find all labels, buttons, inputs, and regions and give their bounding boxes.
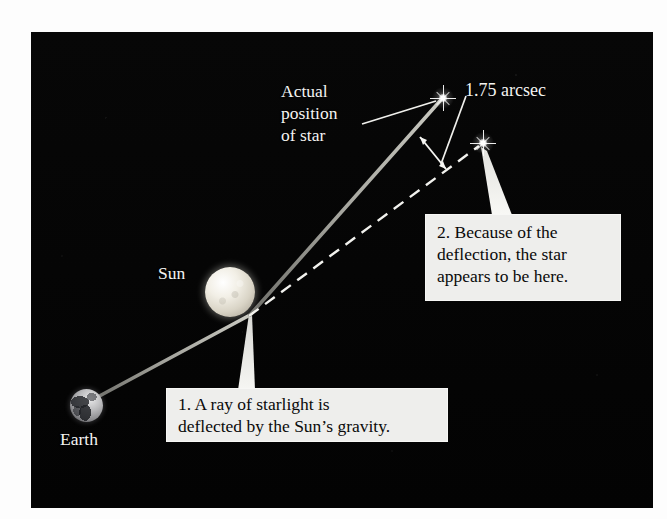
sun-sphere-icon	[205, 267, 255, 317]
star-core	[439, 94, 447, 102]
deflection-angle-label: 1.75 arcsec	[465, 79, 546, 102]
callout-2-text: 2. Because of the deflection, the star a…	[437, 221, 612, 288]
figure-page: Actual position of star 1.75 arcsec Sun …	[0, 0, 667, 519]
callout-2-tail	[481, 147, 512, 215]
light-ray-outgoing	[250, 101, 440, 315]
callout-1-text: 1. A ray of starlight is deflected by th…	[178, 393, 438, 437]
deflection-angle-arrow	[420, 137, 446, 169]
star-core	[479, 139, 487, 147]
callout-box-1: 1. A ray of starlight is deflected by th…	[166, 388, 448, 442]
callout-1-tail	[238, 314, 255, 390]
actual-position-label: Actual position of star	[281, 80, 337, 146]
earth-label: Earth	[60, 428, 98, 450]
earth-globe-icon	[70, 389, 103, 422]
callout-box-2: 2. Because of the deflection, the star a…	[425, 214, 621, 301]
sun-surface-texture	[205, 267, 255, 317]
earth-surface-texture	[70, 389, 103, 422]
sun-label: Sun	[158, 262, 185, 284]
